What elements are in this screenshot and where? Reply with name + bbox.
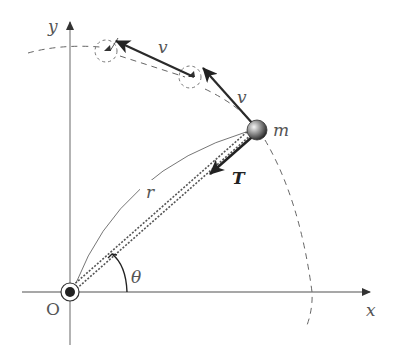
radius-label: r (146, 182, 155, 202)
circular-motion-diagram: x y O v v r T m θ (0, 0, 396, 349)
angle-arc (112, 254, 127, 292)
mass (247, 120, 267, 140)
y-axis-label: y (47, 16, 58, 36)
radius-arc (76, 132, 246, 283)
angle-label: θ (131, 267, 141, 287)
velocity-label-1: v (158, 37, 168, 57)
x-axis-label: x (366, 300, 376, 320)
velocity-arrow-1 (116, 41, 194, 77)
tension-label: T (232, 168, 246, 188)
string (70, 131, 252, 291)
origin-label: O (46, 299, 60, 319)
velocity-label-2: v (237, 87, 247, 107)
mass-label: m (273, 120, 289, 140)
pivot (61, 283, 79, 301)
